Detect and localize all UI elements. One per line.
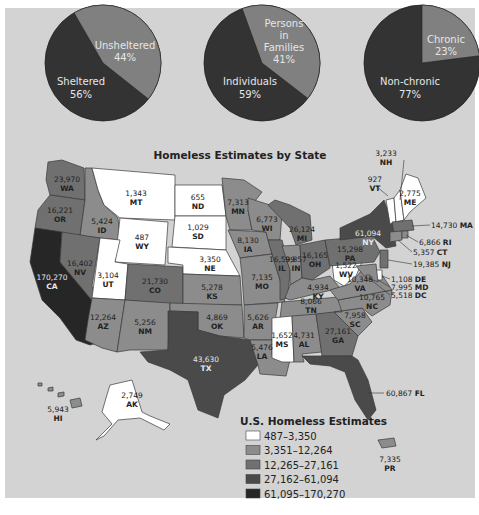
legend-label-4: 27,162–61,094	[264, 474, 339, 485]
state-code-ks: KS	[206, 292, 217, 301]
state-value-hi: 5,943	[47, 405, 69, 414]
state-code-ar: AR	[252, 322, 264, 331]
pie-chart-1: Unsheltered44%Sheltered56%	[45, 5, 161, 121]
state-code-ia: IA	[244, 245, 253, 254]
state-code-wy: WY	[135, 242, 149, 251]
state-value-ne: 3,350	[199, 255, 221, 264]
pie-chart-3: Chronic23%Non-chronic77%	[364, 5, 479, 121]
state-code-tn: TN	[305, 306, 316, 315]
legend-label-3: 12,265–27,161	[264, 460, 339, 471]
state-value-id: 5,424	[91, 217, 113, 226]
pie-dark-label: Non-chronic	[380, 76, 440, 87]
legend-label-5: 61,095–170,270	[264, 489, 345, 500]
state-value-ky: 4,934	[307, 283, 329, 292]
legend-swatch-2	[246, 446, 260, 455]
pie-charts: Unsheltered44%Sheltered56%PersonsinFamil…	[45, 5, 479, 121]
state-value-sc: 7,958	[344, 311, 366, 320]
state-code-al: AL	[299, 340, 310, 349]
state-value-vt: 927	[368, 175, 383, 184]
state-ma[interactable]	[392, 220, 414, 232]
state-code-wi: WI	[261, 224, 272, 233]
state-value-ca: 170,270	[36, 273, 67, 282]
state-value-tx: 43,630	[193, 355, 219, 364]
state-value-nd: 655	[191, 193, 206, 202]
state-value-oh: 16,165	[302, 251, 328, 260]
pie-dark-label: Sheltered	[57, 76, 105, 87]
state-code-ut: UT	[102, 280, 114, 289]
state-code-sc: SC	[350, 320, 361, 329]
pie-dark-pct: 77%	[399, 89, 421, 100]
state-value-mo: 7,135	[251, 273, 273, 282]
state-code-or: OR	[54, 215, 66, 224]
state-value-nc: 10,765	[359, 293, 385, 302]
state-code-ny: NY	[362, 238, 374, 247]
state-code-tx: TX	[201, 364, 212, 373]
state-code-wv: WV	[339, 270, 353, 279]
callout-nj: 19,385 NJ	[413, 260, 451, 269]
state-code-wa: WA	[60, 184, 74, 193]
state-value-ks: 5,278	[201, 283, 223, 292]
state-code-pa: PA	[345, 254, 356, 263]
state-code-id: ID	[97, 226, 106, 235]
callout-ri: 6,866 RI	[419, 238, 452, 247]
state-code-nv: NV	[74, 268, 86, 277]
state-code-ne: NE	[204, 264, 215, 273]
state-value-ms: 1,652	[271, 331, 293, 340]
pie-dark-label: Individuals	[223, 76, 277, 87]
state-code-az: AZ	[97, 322, 109, 331]
pie-light-label: Families	[264, 42, 304, 53]
state-code-hi: HI	[53, 414, 62, 423]
state-code-in: IN	[291, 264, 300, 273]
pie-light-label: Unsheltered	[95, 40, 156, 51]
legend-swatch-5	[246, 489, 260, 498]
state-value-pr: 7,335	[379, 455, 401, 464]
legend-swatch-1	[246, 431, 260, 440]
pie-chart-2: PersonsinFamilies41%Individuals59%	[204, 5, 320, 121]
state-code-mo: MO	[255, 282, 269, 291]
state-code-me: ME	[404, 198, 417, 207]
legend-title: U.S. Homeless Estimates	[240, 415, 387, 427]
state-code-oh: OH	[309, 260, 322, 269]
state-code-sd: SD	[192, 232, 204, 241]
state-value-al: 4,731	[293, 331, 315, 340]
state-value-or: 16,221	[47, 206, 73, 215]
pie-light-label: in	[279, 30, 288, 41]
state-nj[interactable]	[380, 250, 388, 268]
state-value-mt: 1,343	[125, 189, 147, 198]
state-code-la: LA	[257, 352, 268, 361]
state-value-ia: 8,130	[237, 236, 259, 245]
pie-dark-pct: 56%	[70, 89, 92, 100]
pie-dark-pct: 59%	[239, 89, 261, 100]
pie-light-label: Persons	[265, 18, 304, 29]
state-code-ok: OK	[211, 322, 224, 331]
state-value-co: 21,730	[142, 277, 168, 286]
state-value-ok: 4,869	[206, 313, 228, 322]
state-value-wy: 487	[135, 233, 150, 242]
pie-light-label: 41%	[273, 54, 295, 65]
pie-light-label: Chronic	[427, 34, 465, 45]
state-value-nm: 5,256	[134, 318, 156, 327]
legend-label-2: 3,351–12,264	[264, 445, 333, 456]
pie-light-label: 44%	[114, 52, 136, 63]
state-code-pr: PR	[384, 464, 395, 473]
state-code-nm: NM	[138, 327, 152, 336]
state-value-ak: 2,749	[121, 391, 143, 400]
state-value-ga: 27,161	[325, 327, 351, 336]
pie-light-label: 23%	[435, 46, 457, 57]
state-ct[interactable]	[390, 231, 402, 242]
state-value-la: 5,476	[251, 343, 273, 352]
state-code-ms: MS	[276, 340, 289, 349]
legend-label-1: 487–3,350	[264, 431, 317, 442]
state-value-nh: 3,233	[375, 149, 397, 158]
state-value-nv: 16,402	[67, 259, 93, 268]
state-ri[interactable]	[402, 231, 408, 238]
state-value-ar: 5,626	[247, 313, 269, 322]
state-value-wa: 23,970	[54, 175, 80, 184]
state-code-nh: NH	[380, 158, 393, 167]
map-title: Homeless Estimates by State	[154, 149, 327, 161]
state-code-ca: CA	[46, 282, 58, 291]
callout-dc: 5,518 DC	[391, 291, 427, 300]
state-code-ak: AK	[126, 400, 139, 409]
state-code-vt: VT	[370, 184, 382, 193]
state-code-va: VA	[354, 284, 365, 293]
